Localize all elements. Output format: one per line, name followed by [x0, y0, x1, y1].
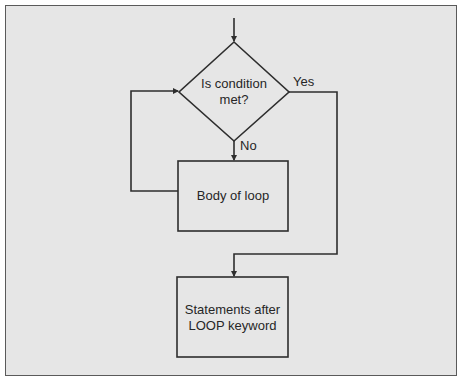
- decision-label-line1: Is condition: [184, 76, 284, 92]
- decision-label: Is condition met?: [184, 76, 284, 108]
- statements-after-line1: Statements after: [177, 302, 288, 318]
- yes-label: Yes: [293, 74, 323, 90]
- loop-back-arrow: [131, 91, 178, 191]
- statements-after-line2: LOOP keyword: [177, 318, 288, 334]
- body-of-loop-label: Body of loop: [178, 188, 288, 204]
- yes-arrow: [234, 92, 337, 276]
- statements-after-label: Statements after LOOP keyword: [177, 302, 288, 334]
- no-label: No: [240, 138, 270, 154]
- decision-label-line2: met?: [184, 92, 284, 108]
